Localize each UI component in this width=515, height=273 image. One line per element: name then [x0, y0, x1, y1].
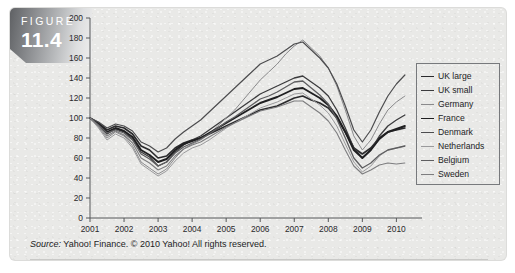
y-tick-label: 80	[74, 133, 84, 143]
series-group	[90, 40, 405, 176]
x-tick-label: 2010	[387, 224, 406, 234]
y-tick-label: 20	[74, 193, 84, 203]
y-tick-label: 160	[69, 53, 83, 63]
x-axis-ticks: 2001200220032004200520062007200820092010	[81, 218, 406, 234]
x-tick-label: 2002	[115, 224, 134, 234]
x-tick-label: 2003	[149, 224, 168, 234]
legend-label: UK large	[438, 71, 471, 81]
legend-swatch-icon	[421, 90, 434, 91]
legend-swatch-icon	[421, 174, 434, 175]
legend-swatch-icon	[421, 132, 434, 133]
series-line-denmark	[90, 42, 405, 152]
legend-swatch-icon	[421, 104, 434, 105]
legend-label: Belgium	[438, 155, 469, 165]
legend-label: UK small	[438, 85, 472, 95]
legend-swatch-icon	[421, 160, 434, 161]
y-tick-label: 140	[69, 73, 83, 83]
y-axis-ticks: 020406080100120140160180200	[69, 13, 90, 223]
x-tick-label: 2005	[217, 224, 236, 234]
legend-item[interactable]: Belgium	[421, 153, 499, 167]
legend-label: Netherlands	[438, 141, 484, 151]
x-tick-label: 2001	[81, 224, 100, 234]
x-tick-label: 2007	[285, 224, 304, 234]
y-tick-label: 100	[69, 113, 83, 123]
y-tick-label: 120	[69, 93, 83, 103]
legend-item[interactable]: Sweden	[421, 167, 499, 181]
legend-item[interactable]: France	[421, 111, 499, 125]
legend-swatch-icon	[421, 118, 434, 119]
x-tick-label: 2006	[251, 224, 270, 234]
legend-swatch-icon	[421, 76, 434, 77]
legend-label: Denmark	[438, 127, 473, 137]
y-tick-label: 180	[69, 33, 83, 43]
legend-label: France	[438, 113, 465, 123]
source-note: Source: Yahoo! Finance. © 2010 Yahoo! Al…	[30, 239, 267, 249]
legend-label: Sweden	[438, 169, 469, 179]
legend-label: Germany	[438, 99, 473, 109]
legend-item[interactable]: Netherlands	[421, 139, 499, 153]
x-tick-label: 2008	[319, 224, 338, 234]
y-tick-label: 40	[74, 173, 84, 183]
source-keyword: Source:	[30, 239, 61, 249]
x-tick-label: 2004	[183, 224, 202, 234]
chart-legend: UK largeUK smallGermanyFranceDenmarkNeth…	[416, 63, 500, 185]
legend-item[interactable]: UK small	[421, 83, 499, 97]
source-text: Yahoo! Finance. © 2010 Yahoo! All rights…	[61, 239, 267, 249]
y-tick-label: 60	[74, 153, 84, 163]
x-tick-label: 2009	[353, 224, 372, 234]
y-tick-label: 200	[69, 13, 83, 23]
legend-swatch-icon	[421, 146, 434, 147]
legend-item[interactable]: UK large	[421, 69, 499, 83]
source-divider	[30, 259, 488, 260]
legend-item[interactable]: Germany	[421, 97, 499, 111]
legend-item[interactable]: Denmark	[421, 125, 499, 139]
y-tick-label: 0	[78, 213, 83, 223]
